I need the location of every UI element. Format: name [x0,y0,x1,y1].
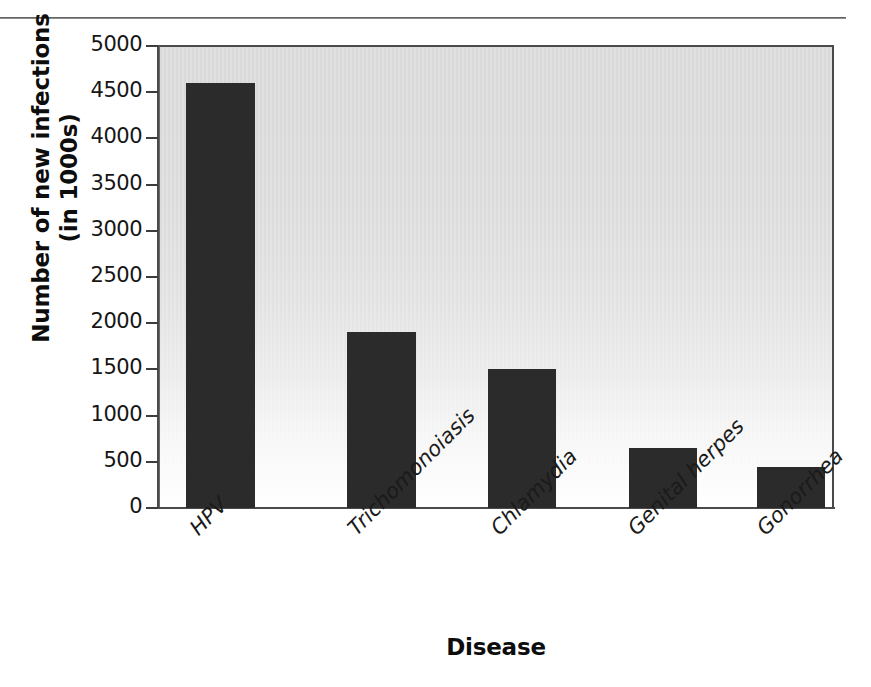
y-axis-tick [146,368,158,370]
y-axis-tick-label: 0 [56,494,142,518]
y-axis-tick [146,461,158,463]
y-axis-tick-label: 1000 [56,402,142,426]
y-axis-tick [146,45,158,47]
y-axis-title-line2: (in 1000s) [55,0,83,393]
y-axis-title: Number of new infections (in 1000s) [27,0,83,393]
y-axis-tick [146,415,158,417]
y-axis-tick [146,230,158,232]
y-axis-tick [146,91,158,93]
x-axis-title: Disease [158,634,834,660]
bar-hpv [186,83,255,508]
y-axis-title-line1: Number of new infections [28,13,54,343]
y-axis-tick-label: 500 [56,448,142,472]
figure-container: 0500100015002000250030003500400045005000… [0,0,871,687]
y-axis-tick [146,137,158,139]
y-axis-tick [146,507,158,509]
y-axis-tick [146,322,158,324]
y-axis-tick [146,276,158,278]
y-axis-tick [146,184,158,186]
